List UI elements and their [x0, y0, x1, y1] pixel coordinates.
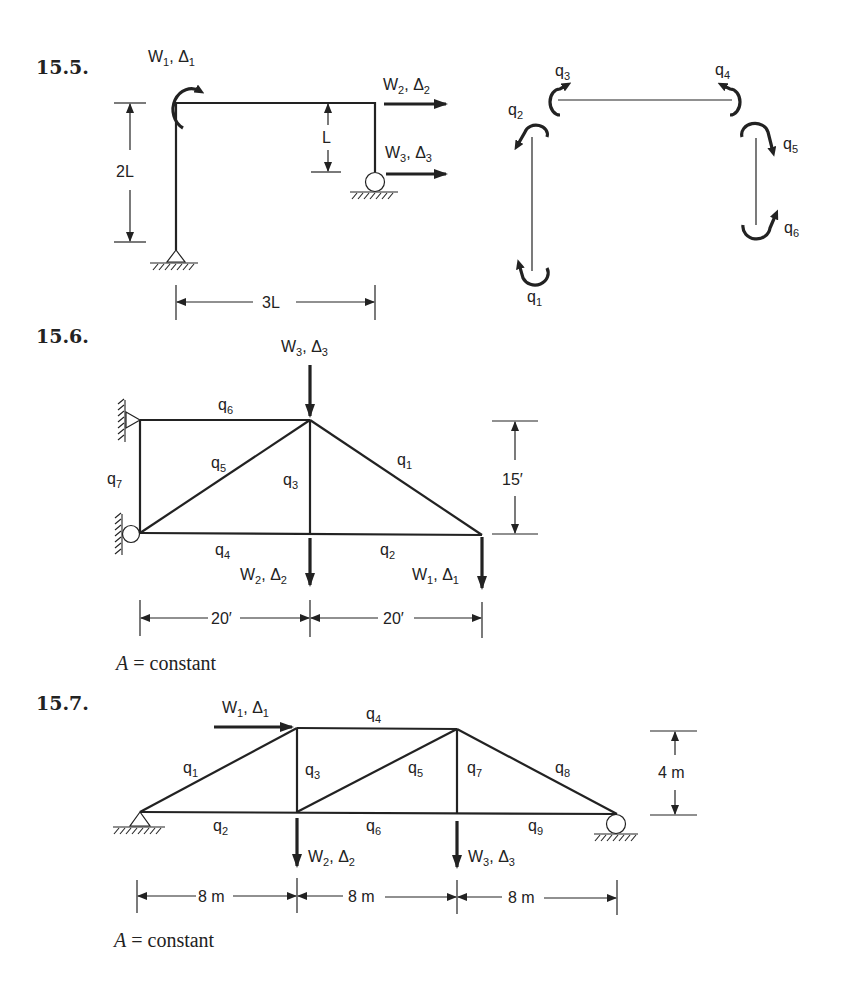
svg-text:3L: 3L	[262, 294, 280, 311]
load-label-w3: W3, Δ3	[385, 144, 432, 164]
member-label: q2	[213, 817, 228, 837]
member-label: q3	[283, 471, 298, 491]
problem-number: 15.5.	[36, 56, 89, 78]
load-label-w1: W1, Δ1	[148, 48, 195, 68]
q-label: q2	[508, 101, 523, 121]
svg-text:4 m: 4 m	[658, 764, 685, 781]
member-label: q7	[467, 759, 482, 779]
member-label: q6	[366, 817, 381, 837]
frame-members	[176, 103, 375, 250]
member-label: q3	[305, 761, 320, 781]
member-label: q5	[408, 759, 423, 779]
dimension-L: L	[311, 104, 341, 172]
load-label-w1: W1, Δ1	[222, 699, 269, 719]
pin-support-icon	[113, 812, 165, 834]
svg-text:8 m: 8 m	[348, 888, 375, 905]
q-label: q6	[784, 219, 799, 239]
member-force-diagram: q3 q4 q2 q1 q5 q6	[508, 61, 799, 308]
truss-members	[140, 728, 617, 814]
load-label-w2: W2, Δ2	[308, 848, 355, 868]
member-label: q7	[107, 470, 122, 490]
q-label: q1	[527, 288, 542, 308]
dimension-height: 15′	[492, 421, 538, 534]
member-label: q8	[555, 759, 570, 779]
member-label: q5	[211, 454, 226, 474]
dimension-spans: 20′ 20′	[140, 600, 482, 638]
svg-text:20′: 20′	[383, 610, 404, 627]
svg-text:8 m: 8 m	[198, 888, 225, 905]
wall-pin-support-icon	[118, 399, 140, 442]
svg-text:L: L	[322, 129, 331, 146]
svg-text:15′: 15′	[502, 471, 523, 488]
q-label: q4	[715, 61, 730, 81]
roller-support-icon	[350, 173, 398, 200]
dimension-height: 4 m	[650, 731, 697, 815]
dimension-3L: 3L	[176, 285, 375, 320]
q-label: q3	[555, 62, 570, 82]
problem-15-6: 15.6.	[36, 325, 538, 674]
member-label: q2	[380, 541, 395, 561]
load-label-w1: W1, Δ1	[412, 566, 459, 586]
load-label-w3: W3, Δ3	[281, 338, 328, 358]
pin-support-icon	[150, 250, 198, 270]
member-label: q9	[528, 817, 543, 837]
member-label: q4	[366, 705, 381, 725]
problem-15-5: 15.5. W1, Δ1	[36, 48, 799, 320]
area-note: A = constant	[114, 652, 217, 674]
dimension-2L: 2L	[114, 103, 146, 242]
wall-roller-support-icon	[115, 513, 140, 555]
roller-support-icon	[594, 815, 638, 842]
problem-number: 15.6.	[36, 325, 89, 347]
truss-members	[140, 420, 482, 535]
load-label-w2: W2, Δ2	[240, 566, 287, 586]
member-label: q6	[218, 396, 233, 416]
area-note: A = constant	[112, 929, 215, 951]
svg-text:8 m: 8 m	[508, 889, 535, 906]
q-label: q5	[783, 135, 798, 155]
member-label: q1	[397, 451, 412, 471]
load-label-w3: W3, Δ3	[468, 848, 515, 868]
problem-15-7: 15.7.	[36, 692, 697, 951]
problem-number: 15.7.	[36, 692, 89, 714]
svg-text:2L: 2L	[116, 163, 134, 180]
figure-canvas: 15.5. W1, Δ1	[0, 0, 853, 990]
dimension-spans: 8 m 8 m 8 m	[137, 878, 617, 915]
member-label: q1	[183, 759, 198, 779]
member-label: q4	[215, 541, 230, 561]
load-label-w2: W2, Δ2	[383, 76, 430, 96]
svg-text:20′: 20′	[211, 610, 232, 627]
